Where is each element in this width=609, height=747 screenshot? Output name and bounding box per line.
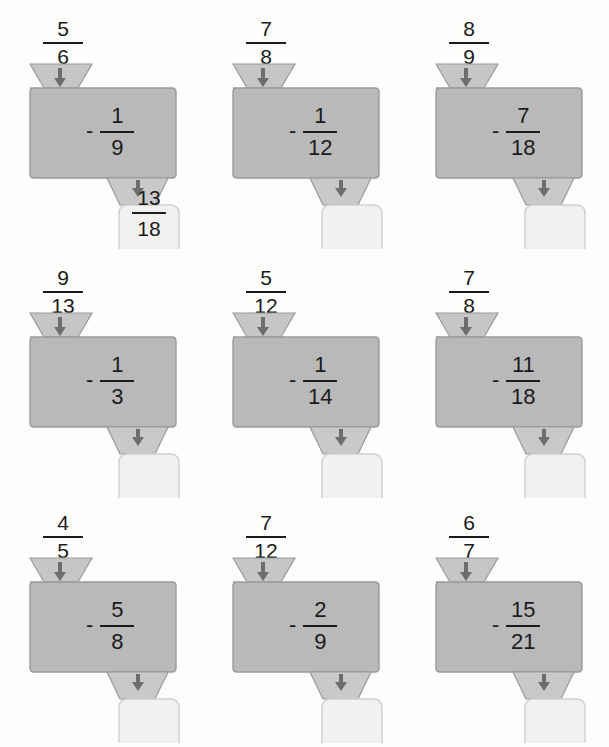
input-numerator: 6 (442, 512, 496, 535)
input-fraction: 7 12 (239, 512, 293, 562)
machine-body (436, 582, 582, 672)
function-machine-graphic (203, 311, 406, 498)
input-numerator: 7 (239, 18, 293, 41)
function-machine-graphic (0, 311, 203, 498)
input-fraction-bar (43, 291, 83, 293)
input-numerator: 8 (442, 18, 496, 41)
input-fraction: 8 9 (442, 18, 496, 68)
input-fraction: 7 8 (239, 18, 293, 68)
answer-box[interactable] (119, 454, 179, 498)
answer-box[interactable] (322, 699, 382, 743)
answer-box[interactable] (525, 454, 585, 498)
answer-box[interactable] (119, 699, 179, 743)
function-machine-cell-4: 9 13 - 1 (0, 249, 203, 498)
function-machine-cell-3: 8 9 - 7 (406, 0, 609, 249)
machine-body (436, 337, 582, 427)
input-numerator: 5 (239, 267, 293, 290)
input-numerator: 4 (36, 512, 90, 535)
function-machine-cell-2: 7 8 - 1 (203, 0, 406, 249)
input-numerator: 7 (239, 512, 293, 535)
machine-body (233, 582, 379, 672)
function-machine-cell-8: 7 12 - 2 (203, 494, 406, 743)
function-machine-graphic (406, 556, 609, 743)
function-machine-graphic (0, 62, 203, 249)
input-fraction-bar (43, 536, 83, 538)
machine-body (436, 88, 582, 178)
input-fraction-bar (449, 42, 489, 44)
worksheet-row: 4 5 - 5 (0, 494, 609, 743)
machine-body (30, 88, 176, 178)
answer-box[interactable] (119, 205, 179, 249)
input-fraction-bar (449, 536, 489, 538)
function-machine-graphic (406, 62, 609, 249)
input-numerator: 5 (36, 18, 90, 41)
answer-box[interactable] (322, 454, 382, 498)
answer-box[interactable] (525, 205, 585, 249)
answer-box[interactable] (322, 205, 382, 249)
input-fraction-bar (246, 536, 286, 538)
function-machine-graphic (203, 62, 406, 249)
input-fraction: 5 6 (36, 18, 90, 68)
input-fraction-bar (43, 42, 83, 44)
function-machine-cell-1: 5 6 - 1 (0, 0, 203, 249)
input-fraction-bar (449, 291, 489, 293)
input-fraction: 9 13 (36, 267, 90, 317)
function-machine-cell-6: 7 8 - 11 (406, 249, 609, 498)
input-fraction-bar (246, 42, 286, 44)
input-numerator: 7 (442, 267, 496, 290)
machine-body (30, 582, 176, 672)
machine-body (30, 337, 176, 427)
function-machine-graphic (203, 556, 406, 743)
input-fraction: 6 7 (442, 512, 496, 562)
input-fraction-bar (246, 291, 286, 293)
function-machine-cell-5: 5 12 - 1 (203, 249, 406, 498)
function-machine-cell-7: 4 5 - 5 (0, 494, 203, 743)
worksheet-grid: 5 6 - 1 (0, 0, 609, 747)
function-machine-graphic (406, 311, 609, 498)
machine-body (233, 88, 379, 178)
function-machine-graphic (0, 556, 203, 743)
answer-box[interactable] (525, 699, 585, 743)
input-fraction: 5 12 (239, 267, 293, 317)
function-machine-cell-9: 6 7 - 15 (406, 494, 609, 743)
machine-body (233, 337, 379, 427)
worksheet-row: 5 6 - 1 (0, 0, 609, 249)
input-numerator: 9 (36, 267, 90, 290)
input-fraction: 4 5 (36, 512, 90, 562)
input-fraction: 7 8 (442, 267, 496, 317)
worksheet-row: 9 13 - 1 (0, 249, 609, 498)
